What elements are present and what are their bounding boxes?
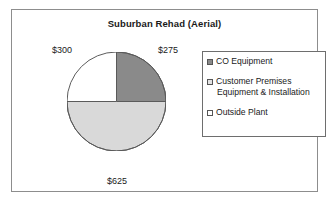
legend-label-co-equipment: CO Equipment [216, 56, 272, 67]
pie-slice-co-equipment[interactable] [117, 52, 167, 102]
legend-item-co-equipment[interactable]: CO Equipment [207, 56, 323, 67]
pie-slice-customer-premises[interactable] [67, 102, 166, 152]
chart-legend: CO Equipment Customer Premises Equipment… [202, 51, 326, 137]
legend-label-outside-plant: Outside Plant [216, 107, 268, 118]
legend-item-outside-plant[interactable]: Outside Plant [207, 107, 323, 118]
pie-label-customer-premises: $625 [107, 176, 127, 186]
legend-label-customer-premises-line1: Customer Premises [216, 76, 291, 86]
legend-item-customer-premises[interactable]: Customer Premises Equipment & Installati… [207, 76, 323, 98]
legend-swatch-customer-premises-icon [207, 79, 213, 85]
chart-frame: Suburban Rehad (Aerial) $275 $300 $625 C… [11, 9, 318, 192]
legend-swatch-outside-plant-icon [207, 110, 213, 116]
pie-label-co-equipment: $275 [158, 45, 178, 55]
pie-slice-outside-plant[interactable] [67, 52, 117, 102]
legend-swatch-co-equipment-icon [207, 59, 213, 65]
legend-label-customer-premises-line2: Equipment & Installation [216, 87, 310, 98]
legend-label-customer-premises: Customer Premises Equipment & Installati… [216, 76, 310, 98]
pie-label-outside-plant: $300 [52, 45, 72, 55]
pie-svg [67, 52, 166, 151]
chart-title: Suburban Rehad (Aerial) [12, 18, 317, 29]
pie-chart [56, 41, 176, 171]
